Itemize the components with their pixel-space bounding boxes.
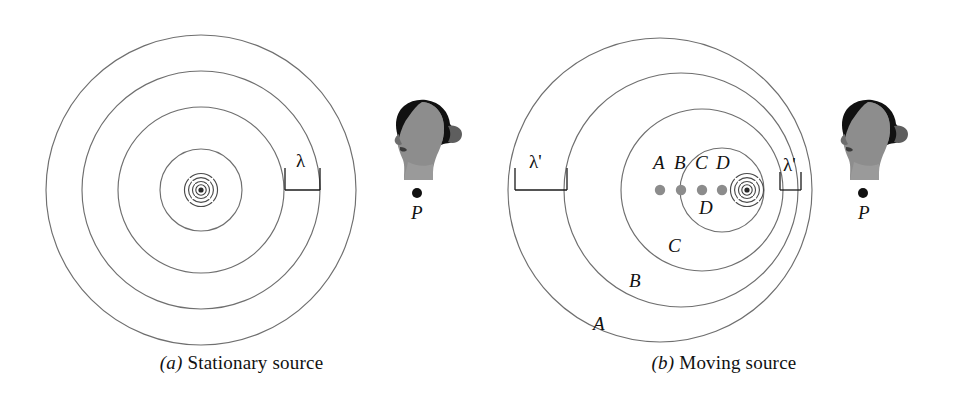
- source-core: [744, 187, 749, 192]
- source-arc-t1: [196, 181, 207, 183]
- source-arc-l3: [730, 179, 734, 201]
- doppler-effect-figure: λ P (a) Stationary source: [0, 0, 965, 398]
- source-arc-l1: [738, 185, 740, 196]
- emission-point-label-c: C: [695, 153, 708, 172]
- source-arc-b3: [190, 203, 212, 207]
- sound-source-icon: [730, 173, 763, 206]
- source-arc-r1: [754, 185, 756, 196]
- observer-point-dot: [858, 188, 868, 198]
- emission-point-c: [697, 185, 707, 195]
- observer-point-label-b: P: [858, 203, 870, 222]
- emission-point-d: [717, 185, 727, 195]
- panel-moving-source: λ' λ' A B C D D C B A P (b) Moving sourc…: [483, 0, 965, 398]
- source-arc-l3: [184, 179, 188, 201]
- wavelength-bracket-a: [285, 168, 320, 190]
- emission-point-b: [676, 185, 686, 195]
- wavefront-label-a: A: [593, 314, 605, 333]
- source-arc-t1: [742, 181, 753, 183]
- panel-stationary-source: λ P (a) Stationary source: [0, 0, 483, 398]
- emission-points-group: [655, 185, 727, 195]
- source-arc-t3: [736, 173, 758, 177]
- wavefront-label-d: D: [699, 198, 713, 217]
- listener-head-icon: [395, 100, 462, 180]
- source-arc-b2: [193, 200, 209, 203]
- panel-a-caption-text: Stationary source: [187, 352, 323, 373]
- source-arc-b2: [739, 200, 755, 203]
- panel-a-canvas: [0, 0, 483, 398]
- source-arc-t3: [190, 173, 212, 177]
- source-arc-r3: [214, 179, 218, 201]
- source-arc-t2: [739, 178, 755, 181]
- source-arc-l1: [192, 185, 194, 196]
- panel-a-caption-tag: (a): [160, 352, 183, 373]
- source-arc-l2: [189, 182, 192, 198]
- panel-b-canvas: [483, 0, 965, 398]
- emission-point-label-b: B: [674, 153, 686, 172]
- wavelength-label-right: λ': [783, 155, 796, 174]
- observer-point-dot: [412, 188, 422, 198]
- listener-head-icon: [841, 100, 908, 180]
- source-core: [198, 187, 203, 192]
- emission-point-label-d: D: [716, 153, 730, 172]
- source-arc-b1: [742, 197, 753, 199]
- wavelength-label-a: λ: [296, 151, 305, 170]
- observer-point-label-a: P: [411, 203, 423, 222]
- wavelength-label-left: λ': [529, 152, 542, 171]
- source-arc-b3: [736, 203, 758, 207]
- wavefront-label-b: B: [629, 271, 641, 290]
- panel-b-caption: (b) Moving source: [483, 352, 965, 374]
- source-arc-l2: [735, 182, 738, 198]
- source-arc-b1: [196, 197, 207, 199]
- source-arc-r2: [211, 182, 214, 198]
- source-arc-r2: [757, 182, 760, 198]
- emission-point-label-a: A: [653, 153, 665, 172]
- panel-b-caption-tag: (b): [652, 352, 675, 373]
- panel-b-caption-text: Moving source: [679, 352, 796, 373]
- panel-a-caption: (a) Stationary source: [0, 352, 483, 374]
- sound-source-icon: [184, 173, 217, 206]
- source-arc-t2: [193, 178, 209, 181]
- wavefront-label-c: C: [668, 236, 681, 255]
- emission-point-a: [655, 185, 665, 195]
- source-arc-r1: [208, 185, 210, 196]
